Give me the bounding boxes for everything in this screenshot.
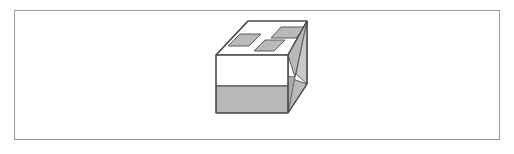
page-root: Cube line drawing Isometric cube with sh… (0, 0, 514, 154)
cube-svg (0, 0, 514, 154)
front-band-lower (216, 86, 288, 113)
cube-illustration (0, 0, 514, 154)
front-band-upper (216, 55, 288, 86)
front-face-group (216, 55, 288, 113)
